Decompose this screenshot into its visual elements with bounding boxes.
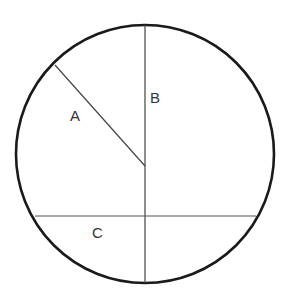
label-b: B [150, 89, 160, 106]
label-a: A [70, 107, 80, 124]
label-c: C [92, 224, 103, 241]
segment-a-radius [55, 65, 145, 166]
circle-diagram [0, 0, 288, 302]
